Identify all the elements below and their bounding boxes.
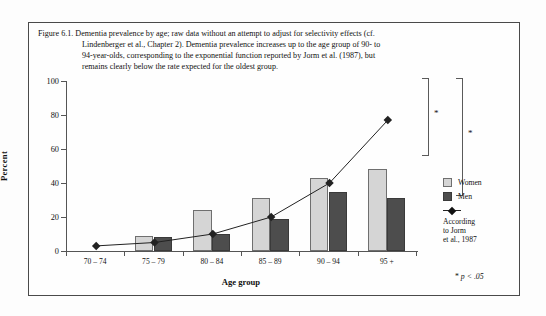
- y-tick-label: 80: [51, 111, 59, 120]
- x-tick-label: 95 +: [380, 257, 394, 266]
- significance-star-women: *: [434, 109, 439, 118]
- legend-label-women: Women: [458, 178, 482, 187]
- x-tick-label: 85 – 89: [259, 257, 282, 266]
- legend-item-men: Men: [443, 192, 513, 201]
- legend-label-men: Men: [458, 192, 472, 201]
- legend-item-jorm-line: [443, 206, 513, 215]
- caption-line-1: Figure 6.1. Dementia prevalence by age; …: [38, 28, 510, 39]
- legend-label-jorm: According to Jorm et al., 1987: [443, 217, 513, 245]
- legend-label-jorm-line-3: et al., 1987: [443, 235, 513, 244]
- x-axis-title: Age group: [222, 277, 260, 287]
- significance-star-men: *: [468, 129, 473, 138]
- jorm-data-marker-0: [92, 242, 100, 250]
- jorm-data-marker-3: [267, 213, 275, 221]
- line-marker-icon: [443, 206, 461, 215]
- y-tick-label: 40: [51, 179, 59, 188]
- y-tick-label: 100: [47, 77, 59, 86]
- y-tick-label: 0: [55, 247, 59, 256]
- jorm-data-marker-2: [209, 230, 217, 238]
- legend-label-jorm-line-2: to Jorm: [443, 226, 513, 235]
- women-swatch-icon: [443, 178, 452, 187]
- x-tick-label: 90 – 94: [317, 257, 340, 266]
- x-tick-label: 80 – 84: [200, 257, 223, 266]
- jorm-line-path: [96, 120, 388, 246]
- men-swatch-icon: [443, 192, 452, 201]
- caption-line-3: 94-year-olds, corresponding to the expon…: [38, 50, 510, 61]
- caption-line-2: Lindenberger et al., Chapter 2). Dementi…: [38, 39, 510, 50]
- legend-label-jorm-line-1: According: [443, 217, 513, 226]
- x-tick-label: 75 – 79: [142, 257, 165, 266]
- chart-legend: Women Men According to Jorm et al., 1987: [443, 178, 513, 245]
- jorm-line-series: [66, 81, 418, 252]
- y-tick-label: 60: [51, 145, 59, 154]
- figure-page: Figure 6.1. Dementia prevalence by age; …: [0, 0, 546, 316]
- x-tick-label: 70 – 74: [84, 257, 107, 266]
- figure-caption: Figure 6.1. Dementia prevalence by age; …: [38, 28, 510, 72]
- legend-item-women: Women: [443, 178, 513, 187]
- significance-bracket-women: [422, 78, 429, 156]
- y-axis-title: Percent: [0, 151, 9, 181]
- y-tick-label: 20: [51, 213, 59, 222]
- footnote-text: p < .05: [461, 272, 484, 281]
- footnote-star: *: [455, 272, 459, 281]
- significance-footnote: * p < .05: [455, 272, 484, 281]
- caption-line-4: remains clearly below the rate expected …: [38, 61, 510, 72]
- jorm-data-marker-1: [150, 238, 158, 246]
- chart-plot-area: Percent Age group 020406080100 70 – 7475…: [66, 81, 416, 251]
